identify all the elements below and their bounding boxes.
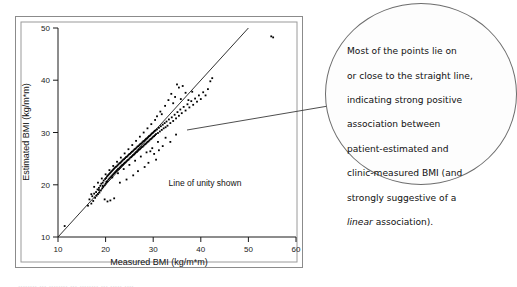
x-tick-label: 10	[54, 245, 63, 254]
data-point	[165, 137, 167, 139]
data-point	[139, 136, 141, 138]
data-point	[103, 180, 105, 182]
data-point	[157, 141, 159, 143]
data-point	[140, 156, 142, 158]
data-point	[123, 168, 125, 170]
data-point	[205, 95, 207, 97]
y-tick-label: 10	[41, 233, 50, 242]
data-point	[183, 106, 185, 108]
data-point	[155, 133, 157, 135]
y-tick-label: 50	[41, 24, 50, 33]
data-point	[94, 197, 96, 199]
data-point	[162, 145, 164, 147]
data-point	[175, 117, 177, 119]
data-point	[174, 114, 176, 116]
data-point	[95, 191, 97, 193]
data-point	[101, 188, 103, 190]
data-point	[157, 132, 159, 134]
data-point	[167, 125, 169, 127]
data-point	[177, 111, 179, 113]
x-tick-label: 40	[196, 245, 205, 254]
y-tick-label: 20	[41, 181, 50, 190]
x-tick-label: 60	[292, 245, 301, 254]
data-point	[134, 160, 136, 162]
data-point	[163, 127, 165, 129]
data-point	[172, 120, 174, 122]
data-point	[172, 102, 174, 104]
data-point	[270, 35, 272, 37]
data-point	[166, 121, 168, 123]
data-point	[192, 104, 194, 106]
data-point	[104, 198, 106, 200]
data-point	[185, 92, 187, 94]
data-point	[105, 183, 107, 185]
callout-line-2: or close to the straight line,	[347, 71, 473, 81]
data-point	[168, 99, 170, 101]
data-point	[131, 144, 133, 146]
data-point	[156, 115, 158, 117]
data-point	[161, 129, 163, 131]
y-tick-label: 30	[41, 129, 50, 138]
y-tick-label: 40	[41, 76, 50, 85]
data-point	[97, 193, 99, 195]
data-point	[202, 91, 204, 93]
data-point	[87, 205, 89, 207]
data-point	[179, 109, 181, 111]
data-point	[107, 201, 109, 203]
callout-line-7: strongly suggestive of a	[347, 193, 456, 203]
data-point	[211, 77, 213, 79]
data-point	[174, 96, 176, 98]
data-point	[106, 181, 108, 183]
data-point	[91, 195, 93, 197]
plot-inner-border	[21, 22, 297, 262]
data-point	[151, 147, 153, 149]
data-point	[128, 148, 130, 150]
data-point	[90, 203, 92, 205]
data-point	[158, 127, 160, 129]
data-point	[116, 161, 118, 163]
data-point	[99, 185, 101, 187]
data-point	[178, 115, 180, 117]
data-point	[169, 141, 171, 143]
data-point	[168, 119, 170, 121]
y-axis-ticks: 50 40 30 20 10	[41, 24, 58, 242]
x-axis-ticks: 10 20 30 40 50 60	[54, 237, 301, 254]
data-point	[98, 187, 100, 189]
data-point	[169, 122, 171, 124]
data-point	[126, 179, 128, 181]
data-point	[92, 200, 94, 202]
data-point	[161, 113, 163, 115]
data-point	[182, 85, 184, 87]
annotation-bubble-text: Most of the points lie on or close to th…	[347, 33, 480, 228]
callout-line-5: patient-estimated and	[347, 144, 448, 154]
data-point	[90, 193, 92, 195]
data-point	[132, 174, 134, 176]
callout-line-1: Most of the points lie on	[347, 46, 457, 56]
callout-line-4: association between	[347, 119, 440, 129]
callout-line-6: clinic-measured BMI (and	[347, 168, 462, 178]
data-point	[164, 122, 166, 124]
data-point	[97, 182, 99, 184]
data-point	[187, 103, 189, 105]
data-point	[154, 119, 156, 121]
data-point	[104, 184, 106, 186]
data-point	[188, 107, 190, 109]
data-point	[93, 193, 95, 195]
callout-line-8-rest: association).	[373, 217, 433, 227]
data-point	[120, 157, 122, 159]
data-point	[101, 178, 103, 180]
data-point	[119, 182, 121, 184]
cut-off-caption: ........ ... ........ ... ........ ... .…	[18, 279, 438, 287]
data-point	[272, 37, 274, 39]
data-point	[153, 153, 155, 155]
data-point	[109, 200, 111, 202]
data-point	[178, 87, 180, 89]
data-point	[89, 198, 91, 200]
data-point	[135, 140, 137, 142]
data-point	[160, 125, 162, 127]
data-point	[98, 189, 100, 191]
data-point	[93, 186, 95, 188]
data-point	[102, 182, 104, 184]
scatter-chart: 50 40 30 20 10 10 20 30 40 50 60 Measure…	[15, 16, 303, 268]
data-point	[165, 126, 167, 128]
